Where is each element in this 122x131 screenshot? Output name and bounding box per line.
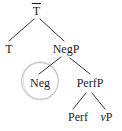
edge-perfp-perf — [73, 93, 86, 109]
node-vp-p: P — [106, 110, 113, 124]
syntax-tree-svg: T T NegP Neg PerfP Perf vP — [0, 0, 122, 131]
syntax-tree-figure: T T NegP Neg PerfP Perf vP — [0, 0, 122, 131]
node-perfp: PerfP — [77, 76, 104, 90]
node-vp: vP — [100, 110, 112, 124]
edge-tbar-t — [9, 19, 34, 41]
node-t: T — [5, 42, 13, 56]
edge-negp-perfp — [70, 58, 90, 74]
edge-negp-neg — [39, 57, 61, 74]
edge-tbar-negp — [40, 19, 64, 41]
node-negp: NegP — [53, 42, 80, 56]
node-perf: Perf — [68, 110, 88, 124]
edge-perfp-vp — [92, 93, 105, 109]
node-neg: Neg — [30, 76, 50, 90]
node-tbar: T — [33, 4, 41, 18]
